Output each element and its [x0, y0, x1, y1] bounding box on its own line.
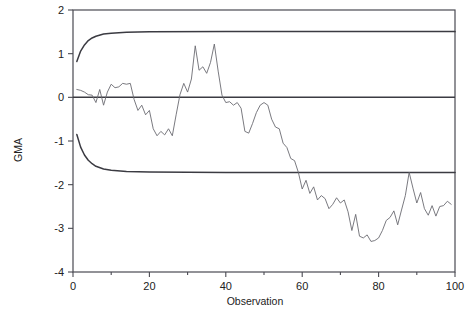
x-tick-label: 80: [372, 280, 384, 292]
y-tick-label: -4: [54, 266, 64, 278]
y-tick-label: 0: [58, 91, 64, 103]
x-tick-label: 20: [143, 280, 155, 292]
x-axis-title: Observation: [227, 295, 284, 307]
y-tick-label: -1: [54, 135, 64, 147]
y-axis-title: GMA: [12, 138, 24, 162]
y-tick-label: -2: [54, 179, 64, 191]
y-tick-label: 1: [58, 48, 64, 60]
gma-control-chart: 210-1-2-3-4 020406080100 Observation GMA: [0, 0, 469, 316]
x-tick-label: 100: [446, 280, 464, 292]
x-tick-label: 60: [296, 280, 308, 292]
y-tick-label: 2: [58, 4, 64, 16]
y-tick-label: -3: [54, 222, 64, 234]
chart-background: [0, 0, 469, 316]
x-tick-label: 40: [220, 280, 232, 292]
x-tick-label: 0: [70, 280, 76, 292]
chart-canvas: 210-1-2-3-4 020406080100 Observation GMA: [0, 0, 469, 316]
